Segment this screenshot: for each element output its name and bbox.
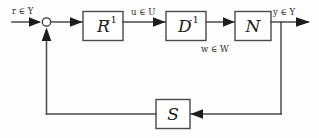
block-diagram-figure: R -1 D -1 N S r ∈ Y u ∈ U w ∈ W y ∈ Y [0,0,319,138]
block-exponent-d: -1 [189,14,199,25]
arrowhead-sum-feedback [42,28,52,42]
signal-label-output: y ∈ Y [272,7,295,17]
summing-junction [42,18,50,26]
block-exponent-r: -1 [107,14,117,25]
signal-label-w: w ∈ W [201,44,229,54]
arrowhead-dinv-input [153,17,166,27]
arrowhead-n-input [223,17,235,27]
arrowhead-output [296,17,310,27]
arrowhead-s-input [191,109,204,119]
block-label-s: S [167,104,179,124]
diagram-canvas: R -1 D -1 N S r ∈ Y u ∈ U w ∈ W y ∈ Y [0,0,319,138]
signal-label-u: u ∈ U [131,7,155,17]
block-label-n: N [245,16,262,36]
arrowhead-input [29,17,41,27]
signal-label-input: r ∈ Y [12,6,34,16]
arrowhead-rinv-input [70,17,83,27]
